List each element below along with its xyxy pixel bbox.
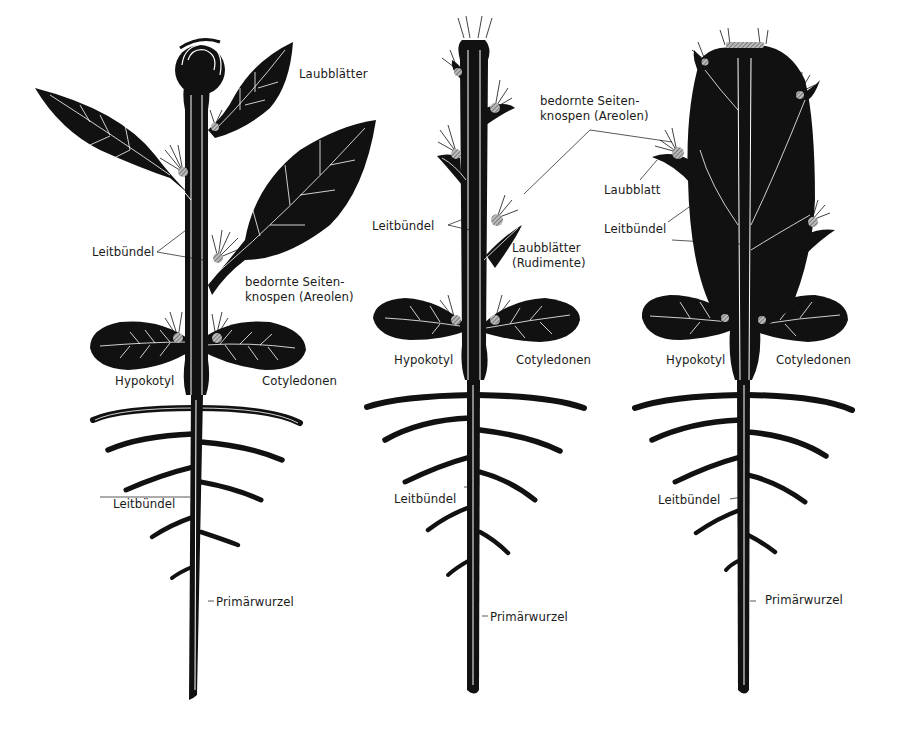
plant-3-leaf-right <box>805 230 835 255</box>
label-areolen-line2: knospen (Areolen) <box>540 108 649 123</box>
label-cotyledonen: Cotyledonen <box>262 373 337 388</box>
label-rudimente: Laubblätter (Rudimente) <box>512 240 586 270</box>
label-areolen-line1: bedornte Seiten- <box>245 274 354 289</box>
label-leitbuendel-shoot: Leitbündel <box>604 221 666 236</box>
label-leitbuendel-shoot: Leitbündel <box>372 218 434 233</box>
plant-1-cotyledon-right <box>200 321 306 370</box>
plant-1-leaf-lower-right <box>208 120 376 295</box>
label-laubblaetter: Laubblätter <box>299 66 368 81</box>
label-primaerwurzel: Primärwurzel <box>216 594 294 609</box>
plant-1-leaf-upper-left <box>35 88 190 195</box>
plant-3-leaf-left <box>652 154 692 185</box>
plant-2-leaf-rudiment-3 <box>437 154 462 185</box>
label-laubblatt: Laubblatt <box>604 182 660 197</box>
label-rudimente-line1: Laubblätter <box>512 240 586 255</box>
label-areolen-line1: bedornte Seiten- <box>540 93 649 108</box>
cactus-seedling-diagram: Laubblätter Leitbündel bedornte Seiten- … <box>0 0 913 742</box>
label-hypokotyl: Hypokotyl <box>394 352 453 367</box>
plant-1-drawing <box>35 40 376 700</box>
label-leitbuendel-root: Leitbündel <box>658 492 720 507</box>
label-primaerwurzel: Primärwurzel <box>765 592 843 607</box>
plant-2-stem <box>458 40 489 380</box>
label-areolen-line2: knospen (Areolen) <box>245 289 354 304</box>
plant-3-leaf-top-right <box>805 80 820 100</box>
label-leitbuendel-root: Leitbündel <box>113 496 175 511</box>
plant-1-stem <box>183 70 209 395</box>
diagram-artwork <box>0 0 913 742</box>
label-rudimente-line2: (Rudimente) <box>512 255 586 270</box>
label-areolen: bedornte Seiten- knospen (Areolen) <box>245 274 354 304</box>
label-areolen: bedornte Seiten- knospen (Areolen) <box>540 93 649 123</box>
label-leitbuendel-root: Leitbündel <box>394 491 456 506</box>
label-cotyledonen: Cotyledonen <box>776 352 851 367</box>
label-cotyledonen: Cotyledonen <box>516 352 591 367</box>
label-leitbuendel-shoot: Leitbündel <box>92 244 154 259</box>
label-primaerwurzel: Primärwurzel <box>490 609 568 624</box>
label-hypokotyl: Hypokotyl <box>666 352 725 367</box>
label-hypokotyl: Hypokotyl <box>115 373 174 388</box>
